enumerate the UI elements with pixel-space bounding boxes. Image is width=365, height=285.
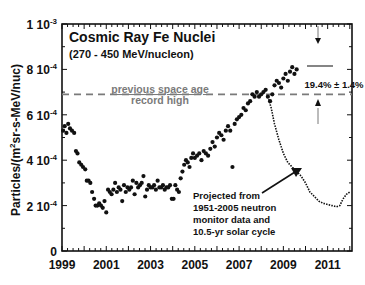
data-point	[215, 135, 219, 139]
data-point	[124, 190, 128, 194]
y-tick-label: 2 10-4	[27, 199, 58, 214]
data-point	[141, 174, 145, 178]
data-point	[272, 83, 276, 87]
chart-title: Cosmic Ray Fe Nuclei	[69, 29, 215, 45]
svg-text:Particles/(m2sr-s-MeV/nuc): Particles/(m2sr-s-MeV/nuc)	[8, 64, 23, 216]
data-point	[154, 188, 158, 192]
data-point	[222, 138, 226, 142]
data-point	[171, 197, 175, 201]
svg-text:10.5-yr solar cycle: 10.5-yr solar cycle	[193, 226, 275, 237]
callout-arrow	[262, 172, 295, 193]
projection-callout: Projected from 1951-2005 neutron monitor…	[193, 168, 302, 237]
data-point	[277, 81, 281, 85]
chart-subtitle: (270 - 450 MeV/nucleon)	[69, 48, 194, 60]
data-point	[134, 181, 138, 185]
data-point	[131, 179, 135, 183]
x-tick-label: 2009	[270, 258, 297, 272]
data-point	[102, 199, 106, 203]
data-point	[191, 151, 195, 155]
data-point	[270, 92, 274, 96]
data-point	[244, 108, 248, 112]
data-point	[179, 176, 183, 180]
data-point	[145, 188, 149, 192]
data-point	[224, 129, 228, 133]
data-point	[64, 131, 68, 135]
svg-text:Projected from: Projected from	[193, 190, 260, 201]
data-point	[66, 122, 70, 126]
x-tick-label: 2003	[137, 258, 164, 272]
arrow-down-icon	[315, 38, 321, 44]
y-tick-label: 0	[50, 245, 57, 259]
percent-increase-label: 19.4% ± 1.4%	[304, 79, 364, 90]
data-point	[283, 72, 287, 76]
data-point	[239, 113, 243, 117]
data-point	[88, 181, 92, 185]
x-tick-label: 2001	[93, 258, 120, 272]
arrow-up-icon	[315, 99, 321, 106]
data-point	[288, 70, 292, 74]
data-point	[180, 169, 184, 173]
data-point	[255, 90, 259, 94]
data-point	[290, 65, 294, 69]
y-tick-label: 1 10-3	[27, 17, 58, 32]
data-point	[161, 183, 165, 187]
y-axis-label: Particles/(m2sr-s-MeV/nuc)	[8, 64, 23, 216]
data-point	[197, 151, 201, 155]
data-point	[90, 190, 94, 194]
data-point	[109, 192, 113, 196]
data-point	[199, 158, 203, 162]
data-point	[111, 188, 115, 192]
y-tick-label: 8 10-4	[27, 62, 58, 77]
data-point	[281, 76, 285, 80]
data-point	[248, 99, 252, 103]
data-point	[129, 185, 133, 189]
data-point	[182, 163, 186, 167]
data-point	[75, 151, 79, 155]
percent-increase-bracket: 19.4% ± 1.4%	[304, 26, 364, 124]
data-point	[208, 147, 212, 151]
data-point	[210, 140, 214, 144]
x-tick-labels: 1999200120032005200720092011	[49, 258, 341, 272]
y-tick-label: 6 10-4	[27, 108, 58, 123]
y-tick-label: 4 10-4	[27, 153, 58, 168]
data-point	[122, 183, 126, 187]
data-point	[72, 131, 76, 135]
projected-data-series	[268, 97, 350, 207]
data-point	[230, 165, 234, 169]
data-point	[104, 210, 108, 214]
data-point	[143, 194, 147, 198]
y-tick-labels: 02 10-44 10-46 10-48 10-41 10-3	[27, 17, 58, 259]
data-point	[228, 129, 232, 133]
data-point	[292, 72, 296, 76]
data-point	[63, 124, 67, 128]
data-point	[133, 192, 137, 196]
x-tick-label: 2007	[226, 258, 253, 272]
data-point	[206, 154, 210, 158]
data-point	[115, 190, 119, 194]
data-point	[252, 95, 256, 99]
data-point	[152, 183, 156, 187]
data-point	[219, 133, 223, 137]
svg-text:monitor data and: monitor data and	[193, 214, 270, 225]
data-point	[120, 199, 124, 203]
data-point	[286, 79, 290, 83]
data-point	[173, 183, 177, 187]
x-tick-label: 1999	[49, 258, 76, 272]
data-point	[279, 85, 283, 89]
x-tick-label: 2005	[181, 258, 208, 272]
data-point	[233, 122, 237, 126]
data-point	[295, 67, 299, 71]
data-point	[113, 181, 117, 185]
data-point	[140, 181, 144, 185]
data-point	[156, 179, 160, 183]
reference-line-label-2: record high	[131, 94, 189, 106]
data-point	[264, 88, 268, 92]
data-point	[83, 167, 87, 171]
data-point	[187, 165, 191, 169]
data-point	[101, 206, 105, 210]
data-point	[168, 183, 172, 187]
data-point	[118, 188, 122, 192]
data-point	[177, 190, 181, 194]
data-point	[226, 124, 230, 128]
svg-text:1951-2005 neutron: 1951-2005 neutron	[193, 202, 277, 213]
